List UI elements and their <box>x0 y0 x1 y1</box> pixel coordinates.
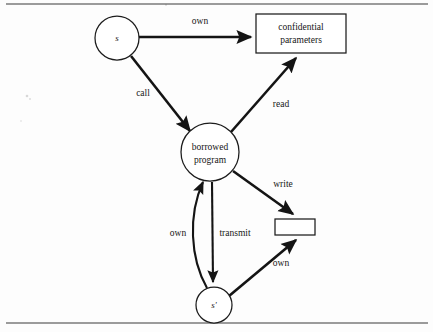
edge-label-own-sprime-box: own <box>273 258 290 268</box>
node-unlabeled-box[interactable] <box>275 219 315 235</box>
node-borrowed-program[interactable] <box>181 123 239 181</box>
edge-sprime-to-box <box>229 240 296 296</box>
node-confidential-parameters[interactable] <box>256 14 346 53</box>
scan-speck <box>26 95 29 98</box>
scan-speck <box>20 120 22 122</box>
edge-sprime-to-borrowed <box>193 182 207 288</box>
node-confidential-parameters-label-line1: confidential <box>278 22 324 32</box>
edge-label-write: write <box>273 179 293 189</box>
edge-borrowed-to-confidential <box>231 58 296 132</box>
node-subject-s-label: s <box>115 33 119 43</box>
edge-label-call: call <box>136 88 150 98</box>
node-borrowed-program-label-line2: program <box>194 155 227 165</box>
diagram-canvas: s confidential parameters borrowed progr… <box>0 0 433 332</box>
scan-speck <box>29 98 31 100</box>
node-confidential-parameters-label-line2: parameters <box>280 35 322 45</box>
edge-borrowed-to-sprime <box>212 182 213 282</box>
node-borrowed-program-label-line1: borrowed <box>192 142 229 152</box>
figure-page: s confidential parameters borrowed progr… <box>0 0 433 332</box>
edge-label-read: read <box>273 99 290 109</box>
edge-label-transmit: transmit <box>219 228 250 238</box>
edge-label-own-s-confidential: own <box>192 16 209 26</box>
edge-borrowed-to-box <box>233 171 293 214</box>
edge-label-own-sprime-borrowed: own <box>170 228 187 238</box>
